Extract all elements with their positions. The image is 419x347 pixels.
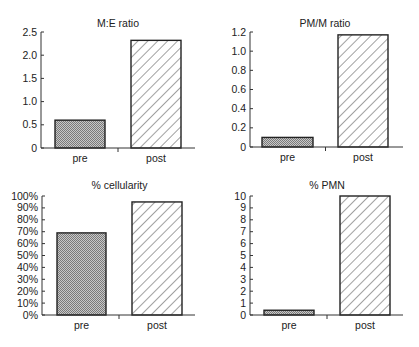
y-tick-label: 0%: [23, 309, 38, 321]
category-label: post: [146, 152, 166, 164]
y-tick-label: 6: [240, 237, 246, 249]
bar-post: [340, 196, 390, 315]
category-label: post: [355, 319, 375, 331]
y-tick-label: 0.8: [231, 64, 246, 76]
panel-pmn: % PMNprepost012345678910: [234, 179, 403, 331]
y-tick-label: 40%: [17, 261, 38, 273]
bar-pre: [55, 120, 105, 148]
bar-post: [338, 35, 388, 147]
chart-title: % PMN: [309, 179, 345, 191]
bar-post: [131, 40, 181, 148]
y-tick-label: 70%: [17, 225, 38, 237]
bar-pre: [57, 233, 106, 315]
y-tick-label: 1.0: [231, 45, 246, 57]
y-tick-label: 5: [240, 249, 246, 261]
y-tick-label: 0.2: [231, 121, 246, 133]
y-tick-label: 2.0: [22, 49, 37, 61]
y-tick-label: 1.2: [231, 26, 246, 38]
y-tick-label: 0.6: [231, 83, 246, 95]
y-tick-label: 1.5: [22, 72, 37, 84]
y-tick-label: 0: [31, 142, 37, 154]
category-label: pre: [72, 152, 87, 164]
y-tick-label: 80%: [17, 213, 38, 225]
y-tick-label: 1.0: [22, 95, 37, 107]
y-tick-label: 50%: [17, 249, 38, 261]
category-label: post: [353, 151, 373, 163]
y-tick-label: 2.5: [22, 26, 37, 38]
y-tick-label: 60%: [17, 237, 38, 249]
chart-title: % cellularity: [91, 179, 148, 191]
category-label: pre: [74, 319, 89, 331]
y-tick-label: 10: [234, 190, 246, 202]
panel-cellularity: % cellularityprepost0%10%20%30%40%50%60%…: [11, 179, 195, 331]
chart-title: M:E ratio: [97, 17, 139, 29]
category-label: pre: [281, 319, 296, 331]
y-tick-label: 0.4: [231, 102, 246, 114]
y-tick-label: 20%: [17, 285, 38, 297]
y-tick-label: 2: [240, 285, 246, 297]
panel-me-ratio: M:E ratioprepost00.51.01.52.02.5: [22, 17, 195, 164]
category-label: post: [147, 319, 167, 331]
y-tick-label: 30%: [17, 273, 38, 285]
figure: M:E ratioprepost00.51.01.52.02.5 PM/M ra…: [0, 0, 419, 347]
bar-post: [132, 202, 182, 315]
y-tick-label: 3: [240, 273, 246, 285]
y-tick-label: 8: [240, 213, 246, 225]
y-tick-label: 4: [240, 261, 246, 273]
y-tick-label: 90%: [17, 201, 38, 213]
y-tick-label: 0.5: [22, 118, 37, 130]
bar-pre: [264, 310, 314, 315]
y-tick-label: 10%: [17, 297, 38, 309]
category-label: pre: [280, 151, 295, 163]
y-tick-label: 1: [240, 297, 246, 309]
bar-pre: [262, 137, 313, 147]
panel-pmm-ratio: PM/M ratioprepost00.20.40.60.81.01.2: [231, 17, 403, 163]
chart-title: PM/M ratio: [300, 17, 351, 29]
y-tick-label: 100%: [11, 190, 38, 202]
y-tick-label: 9: [240, 201, 246, 213]
y-tick-label: 0: [240, 309, 246, 321]
y-tick-label: 7: [240, 225, 246, 237]
y-tick-label: 0: [240, 141, 246, 153]
